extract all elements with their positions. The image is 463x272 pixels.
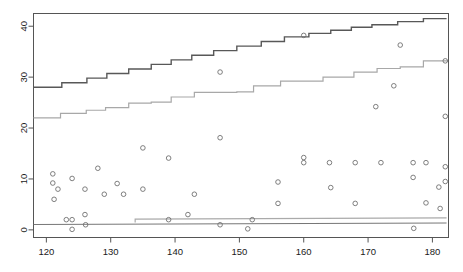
- scatter-point: [327, 160, 332, 165]
- scatter-point: [437, 185, 442, 190]
- scatter-point: [52, 197, 57, 202]
- y-tick-label: 30: [18, 72, 29, 83]
- x-axis-ticks: [46, 238, 432, 243]
- scatter-point: [141, 146, 146, 151]
- x-tick-label: 120: [38, 246, 54, 257]
- x-tick-label: 140: [167, 246, 183, 257]
- scatter-point: [443, 114, 448, 119]
- x-tick-label: 180: [424, 246, 440, 257]
- scatter-point: [218, 135, 223, 140]
- scatter-point: [83, 212, 88, 217]
- scatter-point: [301, 155, 306, 160]
- y-axis-tick-labels: 010203040: [18, 21, 29, 233]
- scatter-point: [373, 104, 378, 109]
- scatter-point: [166, 156, 171, 161]
- scatter-point: [51, 181, 56, 186]
- scatter-point: [218, 70, 223, 75]
- plot-border: [34, 14, 449, 238]
- scatter-point: [121, 192, 126, 197]
- chart-figure: 120130140150160170180 010203040: [0, 0, 463, 272]
- scatter-point: [276, 201, 281, 206]
- scatter-point: [166, 217, 171, 222]
- scatter-point: [96, 166, 101, 171]
- scatter-point: [424, 160, 429, 165]
- y-tick-label: 10: [18, 174, 29, 185]
- scatter-point: [411, 160, 416, 165]
- scatter-point: [398, 43, 403, 48]
- scatter-point: [443, 179, 448, 184]
- scatter-point: [276, 180, 281, 185]
- x-tick-label: 170: [360, 246, 376, 257]
- scatter-point: [424, 201, 429, 206]
- scatter-point: [328, 185, 333, 190]
- scatter-point: [70, 176, 75, 181]
- scatter-point: [102, 192, 107, 197]
- y-tick-label: 0: [18, 227, 29, 232]
- scatter-point: [141, 187, 146, 192]
- y-tick-label: 40: [18, 21, 29, 32]
- plot-lines: [34, 19, 448, 225]
- scatter-point: [115, 181, 120, 186]
- x-tick-label: 150: [231, 246, 247, 257]
- scatter-point: [411, 226, 416, 231]
- y-tick-label: 20: [18, 123, 29, 134]
- scatter-point: [301, 160, 306, 165]
- scatter-point: [70, 217, 75, 222]
- x-tick-label: 130: [103, 246, 119, 257]
- scatter-point: [245, 227, 250, 232]
- scatter-plot-svg: 120130140150160170180 010203040: [0, 0, 463, 272]
- scatter-point: [51, 172, 56, 177]
- scatter-point: [64, 217, 69, 222]
- scatter-point: [192, 192, 197, 197]
- scatter-point: [83, 187, 88, 192]
- scatter-point: [443, 164, 448, 169]
- scatter-point: [56, 187, 61, 192]
- scatter-point: [70, 227, 75, 232]
- y-axis-ticks: [29, 26, 34, 230]
- baseline-light-line: [135, 218, 446, 223]
- scatter-point: [186, 212, 191, 217]
- upper-step-line: [34, 19, 447, 88]
- scatter-point: [353, 201, 358, 206]
- scatter-point: [392, 83, 397, 88]
- scatter-point: [218, 222, 223, 227]
- scatter-point: [379, 160, 384, 165]
- baseline-dark-line: [34, 223, 447, 225]
- lower-step-line: [34, 61, 448, 118]
- axes-box: [34, 14, 449, 238]
- scatter-point: [250, 217, 255, 222]
- scatter-point: [438, 206, 443, 211]
- scatter-point: [411, 175, 416, 180]
- scatter-points: [51, 33, 448, 232]
- scatter-point: [353, 160, 358, 165]
- x-axis-tick-labels: 120130140150160170180: [38, 246, 440, 257]
- x-tick-label: 160: [296, 246, 312, 257]
